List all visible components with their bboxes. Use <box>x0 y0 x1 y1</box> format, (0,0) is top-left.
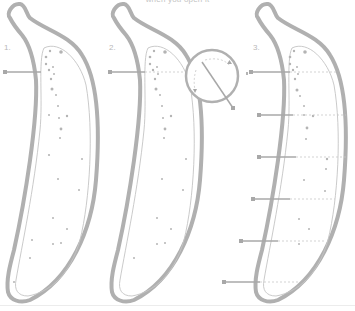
bottom-divider <box>0 305 355 306</box>
cut-marker <box>251 197 335 201</box>
pointer-2 <box>108 70 186 74</box>
banana-1 <box>3 4 98 302</box>
cut-marker <box>257 113 346 117</box>
seed-dots-1 <box>13 50 83 283</box>
seed-dots-3 <box>289 50 328 245</box>
cut-marker <box>222 280 300 284</box>
banana-2 <box>108 4 202 302</box>
magnifier-circle <box>186 50 248 110</box>
banana-diagram <box>0 0 355 311</box>
banana-3 <box>222 4 346 302</box>
cut-marker <box>257 155 346 159</box>
cut-marker <box>239 239 325 243</box>
